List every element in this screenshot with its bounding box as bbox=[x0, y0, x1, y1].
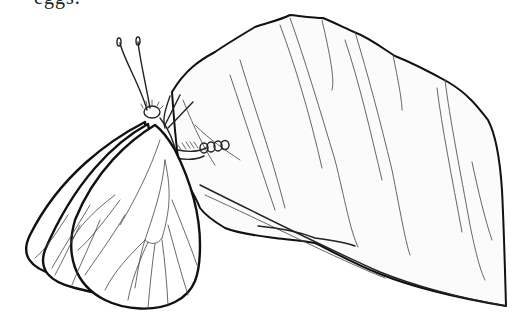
antennae bbox=[117, 37, 150, 110]
leaf bbox=[172, 15, 506, 306]
butterfly bbox=[26, 37, 206, 309]
butterfly-leaf-illustration bbox=[0, 0, 516, 324]
head bbox=[144, 106, 160, 118]
